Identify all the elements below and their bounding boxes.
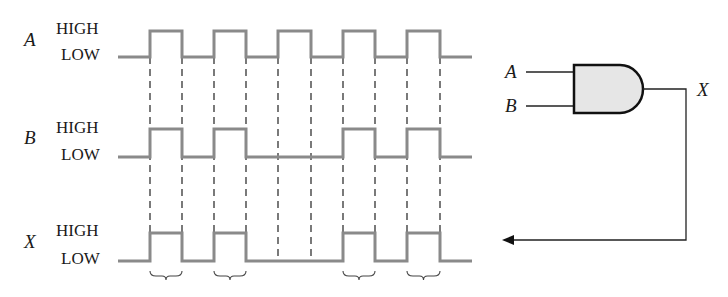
signal-b-name: B	[24, 127, 36, 148]
and-gate-icon	[574, 65, 643, 113]
gate-input-a-label: A	[503, 61, 517, 82]
signal-x-low-label: LOW	[61, 249, 101, 268]
signal-b-labels: B HIGH LOW	[24, 118, 101, 164]
waveform-a	[118, 31, 472, 57]
signal-a-high-label: HIGH	[56, 19, 99, 38]
signal-b-high-label: HIGH	[56, 118, 99, 137]
gate-input-b-label: B	[505, 95, 517, 116]
waveform-b	[118, 129, 472, 157]
signal-a-low-label: LOW	[61, 45, 101, 64]
signal-x-labels: X HIGH LOW	[23, 221, 101, 268]
signal-a-labels: A HIGH LOW	[22, 19, 101, 64]
signal-a-name: A	[22, 29, 36, 50]
and-gate-circuit: A B X	[502, 61, 710, 245]
brace-icon	[214, 271, 246, 280]
waveform-x	[118, 233, 472, 261]
arrowhead-icon	[502, 235, 514, 245]
gate-output-x-label: X	[696, 79, 710, 100]
dashed-guide-lines	[150, 57, 440, 261]
signal-x-name: X	[23, 231, 37, 252]
timing-diagram: A HIGH LOW B HIGH LOW X HIGH LOW A B X	[0, 0, 728, 297]
brace-icon	[343, 271, 375, 280]
signal-x-high-label: HIGH	[56, 221, 99, 240]
brace-icon	[150, 271, 182, 280]
signal-b-low-label: LOW	[61, 145, 101, 164]
pulse-braces	[150, 271, 440, 280]
brace-icon	[407, 271, 440, 280]
